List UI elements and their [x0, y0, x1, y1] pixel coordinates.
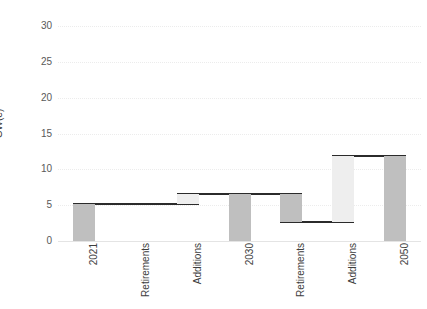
y-tick-label: 10	[8, 163, 52, 174]
x-tick-label-6: 2050	[399, 243, 410, 265]
y-tick-label: 25	[8, 56, 52, 67]
waterfall-chart: 051015202530 GW(e) 2021RetirementsAdditi…	[0, 0, 427, 309]
gridline-20	[58, 98, 421, 100]
gridline-30	[58, 26, 421, 28]
y-tick-label: 20	[8, 92, 52, 103]
bar-2021-0[interactable]	[73, 204, 95, 241]
bar-retirements-4[interactable]	[280, 194, 302, 221]
gridline-25	[58, 62, 421, 64]
bar-additions-2[interactable]	[177, 194, 199, 204]
gridline-15	[58, 134, 421, 136]
y-tick-label: 30	[8, 20, 52, 31]
bar-additions-5[interactable]	[332, 156, 354, 221]
y-axis-ticks: 051015202530	[0, 26, 52, 241]
gridline-10	[58, 169, 421, 171]
y-tick-label: 0	[8, 235, 52, 246]
y-axis-label: GW(e)	[0, 109, 4, 138]
y-tick-label: 15	[8, 128, 52, 139]
x-tick-label-1: Retirements	[140, 243, 151, 297]
y-tick-label: 5	[8, 199, 52, 210]
x-tick-label-5: Additions	[347, 243, 358, 284]
bar-2030-3[interactable]	[229, 194, 251, 241]
x-tick-label-0: 2021	[88, 243, 99, 265]
x-tick-label-4: Retirements	[295, 243, 306, 297]
x-tick-label-3: 2030	[244, 243, 255, 265]
bar-2050-6[interactable]	[384, 156, 406, 241]
x-axis-labels: 2021RetirementsAdditions2030RetirementsA…	[58, 243, 421, 309]
x-tick-label-2: Additions	[192, 243, 203, 284]
plot-area	[58, 26, 421, 241]
